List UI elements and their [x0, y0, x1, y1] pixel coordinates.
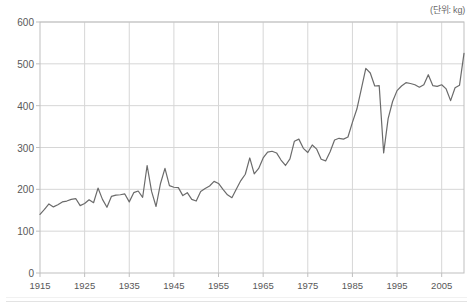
x-tick-label: 1985 [342, 280, 363, 291]
footer-divider [6, 301, 467, 302]
y-tick-label: 600 [2, 17, 34, 28]
x-tick-label: 1965 [253, 280, 274, 291]
y-tick-label: 0 [2, 268, 34, 279]
x-tick-label: 1935 [119, 280, 140, 291]
y-tick-label: 400 [2, 100, 34, 111]
x-tick-label: 1955 [208, 280, 229, 291]
footer-divider-light [6, 297, 467, 298]
y-tick-label: 200 [2, 184, 34, 195]
data-series-line [40, 53, 464, 214]
x-tick-label: 1925 [74, 280, 95, 291]
chart-plot-area [0, 0, 473, 308]
y-tick-label: 300 [2, 142, 34, 153]
y-tick-label: 100 [2, 226, 34, 237]
y-tick-label: 500 [2, 58, 34, 69]
x-tick-label: 1945 [163, 280, 184, 291]
x-tick-label: 1915 [29, 280, 50, 291]
x-tick-label: 1975 [297, 280, 318, 291]
x-tick-label: 2005 [431, 280, 452, 291]
line-chart-figure: (단위: kg) 0100200300400500600 19151925193… [0, 0, 473, 308]
x-tick-label: 1995 [386, 280, 407, 291]
